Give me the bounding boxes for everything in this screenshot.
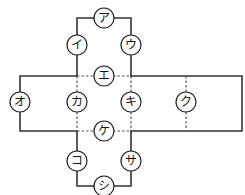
label-i: イ (67, 35, 87, 55)
svg-text:オ: オ (14, 95, 26, 109)
label-sa: サ (121, 151, 141, 171)
label-ki: キ (121, 92, 141, 112)
label-shi: シ (94, 176, 114, 195)
svg-text:ア: ア (98, 11, 110, 25)
svg-text:ケ: ケ (98, 124, 110, 138)
label-u: ウ (121, 35, 141, 55)
svg-text:ウ: ウ (125, 38, 137, 52)
svg-text:シ: シ (98, 179, 110, 193)
svg-text:イ: イ (71, 38, 83, 52)
label-e: エ (94, 66, 114, 86)
label-ku: ク (176, 92, 196, 112)
svg-text:カ: カ (71, 95, 83, 109)
svg-text:コ: コ (71, 154, 83, 168)
svg-text:キ: キ (125, 95, 137, 109)
label-ke: ケ (94, 121, 114, 141)
label-a: ア (94, 8, 114, 28)
edge-labels: ア イ ウ エ オ カ キ ク ケ コ サ シ (10, 8, 196, 195)
svg-text:ク: ク (180, 95, 192, 109)
label-ka: カ (67, 92, 87, 112)
label-o: オ (10, 92, 30, 112)
label-ko: コ (67, 151, 87, 171)
svg-text:エ: エ (98, 69, 110, 83)
svg-text:サ: サ (125, 154, 137, 168)
box-net-diagram: ア イ ウ エ オ カ キ ク ケ コ サ シ (0, 0, 245, 195)
